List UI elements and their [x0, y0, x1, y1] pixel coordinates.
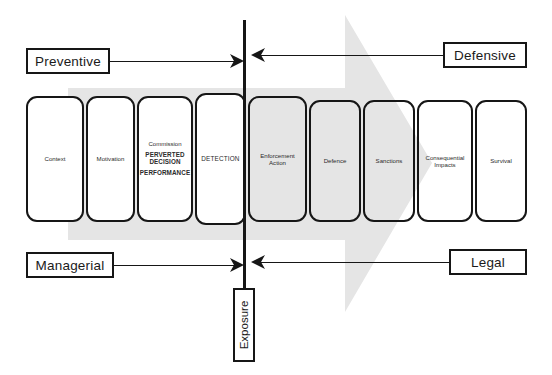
diagram-canvas: Context Motivation Commission PERVERTED … [0, 0, 552, 375]
process-box-survival[interactable]: Survival [475, 100, 527, 222]
process-box-label-group: Commission PERVERTED DECISION PERFORMANC… [138, 141, 192, 176]
commission-line-2a: PERVERTED [140, 151, 190, 159]
connector-legal [256, 262, 450, 264]
process-box-defence[interactable]: Defence [309, 100, 361, 222]
process-box-label: Sanctions [374, 157, 405, 164]
callout-preventive[interactable]: Preventive [26, 48, 110, 74]
callout-label: Preventive [35, 54, 101, 69]
process-box-consequential-impacts[interactable]: Consequential Impacts [417, 100, 473, 222]
callout-label: Legal [471, 255, 505, 270]
process-box-label: Defence [322, 157, 349, 164]
arrow-head-left-defensive [249, 46, 265, 64]
commission-line-1: Commission [140, 141, 190, 148]
commission-line-3: PERFORMANCE [140, 169, 190, 177]
process-box-context[interactable]: Context [26, 96, 84, 222]
callout-legal[interactable]: Legal [449, 249, 527, 275]
callout-managerial[interactable]: Managerial [26, 252, 114, 278]
callout-defensive[interactable]: Defensive [443, 42, 527, 68]
process-box-label: Enforcement Action [250, 152, 305, 167]
process-box-label: Consequential Impacts [419, 154, 471, 169]
arrow-head-left-legal [249, 253, 265, 271]
process-box-motivation[interactable]: Motivation [86, 96, 135, 222]
process-box-enforcement-action[interactable]: Enforcement Action [248, 96, 307, 222]
callout-label: Defensive [454, 48, 516, 63]
commission-line-2b: DECISION [140, 158, 190, 166]
arrow-head-right-preventive [230, 52, 246, 70]
exposure-label: Exposure [238, 301, 250, 350]
exposure-box[interactable]: Exposure [233, 288, 255, 362]
process-box-label: Survival [488, 157, 514, 164]
process-box-detection[interactable]: DETECTION [195, 93, 246, 225]
connector-preventive [110, 61, 237, 63]
process-box-label: DETECTION [199, 155, 241, 163]
process-box-label: Motivation [95, 155, 127, 162]
process-box-sanctions[interactable]: Sanctions [363, 100, 415, 222]
process-box-label: Context [42, 155, 67, 162]
connector-defensive [256, 55, 444, 57]
callout-label: Managerial [36, 258, 105, 273]
connector-managerial [114, 265, 237, 267]
process-box-commission[interactable]: Commission PERVERTED DECISION PERFORMANC… [137, 96, 193, 222]
arrow-head-right-managerial [230, 256, 246, 274]
